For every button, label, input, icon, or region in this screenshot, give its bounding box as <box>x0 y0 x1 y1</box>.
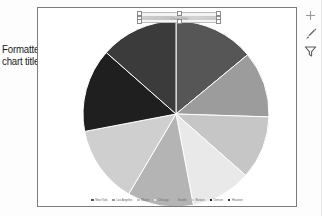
legend-swatch <box>192 199 195 202</box>
legend-swatch <box>228 199 231 202</box>
chart-styles-button[interactable] <box>303 26 318 41</box>
chart-quick-tools[interactable] <box>303 8 320 62</box>
legend-item[interactable]: Boston <box>192 198 205 202</box>
chart-elements-button[interactable] <box>303 8 318 23</box>
pie-svg <box>38 8 296 206</box>
legend-item[interactable]: Houston <box>228 198 243 202</box>
legend-swatch <box>137 199 140 202</box>
legend-label: New York <box>95 198 107 202</box>
legend-swatch <box>174 199 177 202</box>
legend-item[interactable]: Seattle <box>174 198 187 202</box>
legend-item[interactable]: Denver <box>210 198 223 202</box>
legend-label: Boston <box>196 198 205 202</box>
legend-item[interactable]: Miami <box>137 198 149 202</box>
plus-icon <box>305 10 316 21</box>
chart-legend[interactable]: New YorkLos AngelesMiamiChicagoSeattleBo… <box>38 198 296 202</box>
legend-swatch <box>154 199 157 202</box>
legend-label: Los Angeles <box>116 198 132 202</box>
legend-label: Chicago <box>158 198 169 202</box>
legend-label: Houston <box>232 198 243 202</box>
funnel-icon <box>304 45 317 58</box>
legend-swatch <box>210 199 213 202</box>
brush-icon <box>304 27 317 40</box>
legend-label: Denver <box>214 198 223 202</box>
resize-handle-bottom-left[interactable] <box>137 19 142 24</box>
legend-item[interactable]: New York <box>91 198 107 202</box>
legend-label: Seattle <box>178 198 187 202</box>
legend-label: Miami <box>141 198 149 202</box>
legend-swatch <box>112 199 115 202</box>
resize-handle-bottom-right[interactable] <box>216 19 221 24</box>
chart-title-placeholder[interactable]: Chart Title <box>138 12 220 23</box>
legend-item[interactable]: Los Angeles <box>112 198 132 202</box>
chart-area[interactable]: Chart Title New YorkLos AngelesMiamiChic… <box>37 7 297 207</box>
pie-plot-area[interactable] <box>38 8 296 206</box>
legend-item[interactable]: Chicago <box>154 198 169 202</box>
legend-swatch <box>91 199 94 202</box>
resize-handle-bottom-center[interactable] <box>177 19 182 24</box>
chart-filters-button[interactable] <box>303 44 318 59</box>
resize-handle-top-center[interactable] <box>177 11 182 16</box>
